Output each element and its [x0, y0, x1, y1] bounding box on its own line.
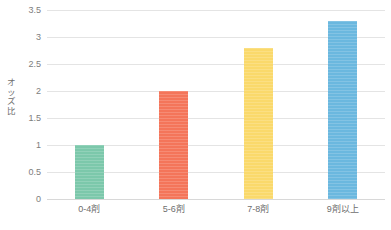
bar[interactable]: [244, 48, 273, 199]
y-axis-tick-label: 0: [36, 195, 41, 204]
gridline-0: 0: [47, 199, 385, 200]
y-axis-tick-label: 0.5: [28, 168, 41, 177]
gridline-3.5: 3.5: [47, 10, 385, 11]
y-axis-tick-label: 1: [36, 141, 41, 150]
x-axis-category-label: 7-8剤: [223, 204, 293, 214]
y-axis-tick-label: 1.5: [28, 114, 41, 123]
x-axis-category-label: 9剤以上: [308, 204, 378, 214]
x-axis-category-label: 0-4剤: [54, 204, 124, 214]
x-axis-category-label: 5-6剤: [139, 204, 209, 214]
y-axis-tick-label: 2: [36, 87, 41, 96]
bar[interactable]: [75, 145, 104, 199]
bar-chart: オ ッ ズ 比 00.511.522.533.5 0-4剤5-6剤7-8剤9剤以…: [0, 0, 391, 230]
y-axis-tick-label: 3: [36, 33, 41, 42]
y-axis-tick-label: 2.5: [28, 60, 41, 69]
y-axis-tick-label: 3.5: [28, 6, 41, 15]
bar[interactable]: [328, 21, 357, 199]
bar[interactable]: [159, 91, 188, 199]
y-axis-title: オ ッ ズ 比: [4, 78, 18, 116]
plot-area: 00.511.522.533.5: [47, 10, 385, 199]
